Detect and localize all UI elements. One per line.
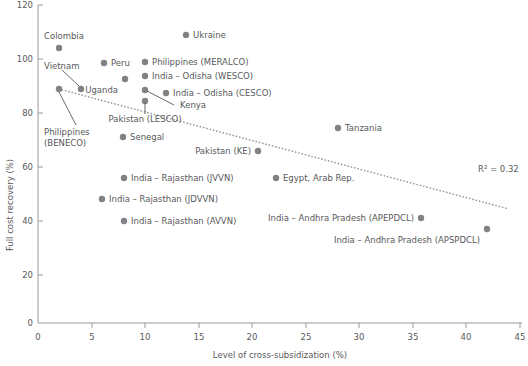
x-tick-label-5: 5: [89, 332, 94, 342]
label-pakistan-lesco: Pakistan (LESCO): [108, 114, 181, 124]
label-philippines-meralco: Philippines (MERALCO): [152, 57, 249, 67]
label-egypt: Egypt, Arab Rep.: [283, 173, 354, 183]
point-labels: Colombia Ukraine Peru Philippines (MERAL…: [44, 30, 480, 245]
label-india-rajasthan-jdvvn: India – Rajasthan (JDVVN): [109, 194, 218, 204]
x-axis-title: Level of cross-subsidization (%): [213, 350, 347, 360]
label-india-rajasthan-jvvn: India – Rajasthan (JVVN): [131, 173, 234, 183]
label-senegal: Senegal: [130, 132, 164, 142]
x-tick-label-35: 35: [408, 332, 419, 342]
y-tick-label-40: 40: [22, 216, 33, 226]
data-point-senegal[interactable]: [120, 134, 126, 140]
label-uganda: Uganda: [85, 85, 118, 95]
x-tick-label-25: 25: [301, 332, 312, 342]
y-tick-label-0: 0: [28, 318, 33, 328]
label-india-odisha-cesco: India – Odisha (CESCO): [173, 88, 272, 98]
data-point-colombia[interactable]: [56, 45, 62, 51]
data-point-vietnam[interactable]: [78, 86, 84, 92]
label-pakistan-ke: Pakistan (KE): [195, 146, 251, 156]
x-tick-label-20: 20: [247, 332, 258, 342]
y-tick-label-120: 120: [17, 0, 33, 10]
label-tanzania: Tanzania: [344, 123, 382, 133]
x-tick-label-0: 0: [35, 332, 40, 342]
data-point-philippines-beneco[interactable]: [56, 86, 62, 92]
x-tick-label-15: 15: [194, 332, 205, 342]
x-tick-label-10: 10: [140, 332, 151, 342]
data-point-india-andhra-apepdcl[interactable]: [418, 215, 424, 221]
label-colombia: Colombia: [44, 31, 84, 41]
y-axis-ticks: [38, 5, 43, 275]
data-point-india-andhra-apspdcl[interactable]: [484, 226, 490, 232]
label-philippines-beneco-line1: Philippines: [44, 127, 90, 137]
label-ukraine: Ukraine: [193, 30, 226, 40]
data-point-tanzania[interactable]: [335, 125, 341, 131]
data-point-pakistan-ke[interactable]: [255, 148, 261, 154]
data-point-kenya[interactable]: [142, 87, 148, 93]
y-tick-label-20: 20: [22, 270, 33, 280]
trendline: [59, 89, 509, 209]
data-point-india-rajasthan-jdvvn[interactable]: [99, 196, 105, 202]
data-point-india-rajasthan-avvn[interactable]: [121, 218, 127, 224]
leader-line-kenya: [147, 91, 174, 105]
data-point-india-odisha-cesco[interactable]: [163, 90, 169, 96]
data-point-philippines-meralco[interactable]: [142, 59, 148, 65]
label-peru: Peru: [111, 58, 130, 68]
y-axis-title: Full cost recovery (%): [5, 159, 15, 251]
y-tick-label-60: 60: [22, 162, 33, 172]
x-axis-ticks: [92, 323, 520, 328]
scatter-chart: 120 100 80 60 40 20 0 0 5 10 15 20 25: [0, 0, 528, 366]
x-tick-label-45: 45: [515, 332, 526, 342]
leader-line-vietnam: [62, 70, 79, 86]
data-point-egypt[interactable]: [273, 175, 279, 181]
label-vietnam: Vietnam: [44, 61, 79, 71]
r-squared-annotation: R² = 0.32: [478, 164, 519, 174]
x-tick-label-40: 40: [461, 332, 472, 342]
y-tick-label-100: 100: [17, 54, 33, 64]
y-tick-label-80: 80: [22, 108, 33, 118]
data-point-india-odisha-wesco[interactable]: [142, 73, 148, 79]
data-point-india-rajasthan-jvvn[interactable]: [121, 175, 127, 181]
label-india-andhra-apepdcl: India – Andhra Pradesh (APEPDCL): [268, 213, 414, 223]
label-philippines-beneco-line2: (BENECO): [44, 138, 86, 148]
data-point-ukraine[interactable]: [183, 32, 189, 38]
label-india-odisha-wesco: India – Odisha (WESCO): [152, 71, 253, 81]
data-point-uganda[interactable]: [122, 76, 128, 82]
leader-line-philippines-beneco: [59, 92, 76, 125]
label-india-andhra-apspdcl: India – Andhra Pradesh (APSPDCL): [334, 235, 480, 245]
x-axis-tick-labels: 0 5 10 15 20 25 30 35 40 45: [35, 332, 525, 342]
x-tick-label-30: 30: [354, 332, 365, 342]
label-india-rajasthan-avvn: India – Rajasthan (AVVN): [131, 216, 236, 226]
y-axis-tick-labels: 120 100 80 60 40 20 0: [17, 0, 33, 328]
data-point-peru[interactable]: [101, 60, 107, 66]
label-kenya: Kenya: [180, 100, 206, 110]
